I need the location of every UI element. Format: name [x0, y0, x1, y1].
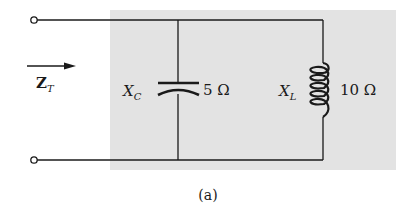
- top-terminal: [31, 17, 37, 23]
- input-impedance-label: ZT: [36, 74, 55, 94]
- bottom-terminal: [31, 157, 37, 163]
- inductor-value-label: 10 Ω: [340, 81, 376, 99]
- capacitor-value-label: 5 Ω: [203, 81, 230, 99]
- circuit-diagram: ZT XC 5 Ω XL 10 Ω (a): [0, 0, 416, 215]
- arrow-head-icon: [64, 63, 76, 70]
- figure-caption: (a): [198, 187, 217, 203]
- input-impedance-arrow: [27, 63, 76, 70]
